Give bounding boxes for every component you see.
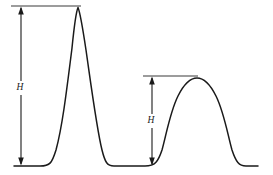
- large-peak-height-label: H: [16, 82, 25, 92]
- figure-canvas: H H: [0, 0, 273, 175]
- peak-height-figure: H H: [0, 0, 273, 175]
- large-peak-arrow-down-icon: [18, 158, 24, 166]
- small-peak-arrow-up-icon: [149, 77, 155, 85]
- detector-signal-curve: [14, 8, 258, 167]
- large-peak-height-dimension: H: [13, 7, 28, 166]
- large-peak-arrow-up-icon: [18, 7, 24, 15]
- small-peak-height-dimension: H: [144, 77, 159, 166]
- small-peak-height-label: H: [147, 115, 156, 125]
